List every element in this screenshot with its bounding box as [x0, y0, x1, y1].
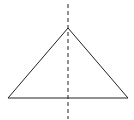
triangle-diagram	[0, 0, 134, 120]
